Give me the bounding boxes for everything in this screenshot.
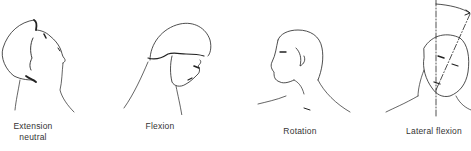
label-lateral-flexion: Lateral flexion [400, 126, 468, 137]
head-lateral-flexion-illustration [360, 0, 471, 120]
panel-flexion: Flexion [120, 0, 240, 151]
panel-extension: Extension neutral [0, 0, 120, 151]
label-extension: Extension neutral [8, 121, 58, 143]
head-flexion-illustration [120, 0, 240, 115]
head-rotation-illustration [240, 0, 360, 115]
panel-rotation: Rotation [240, 0, 360, 151]
label-rotation: Rotation [278, 126, 322, 137]
panel-lateral-flexion: Lateral flexion [360, 0, 471, 151]
label-flexion: Flexion [140, 121, 180, 132]
head-extension-illustration [0, 0, 120, 115]
